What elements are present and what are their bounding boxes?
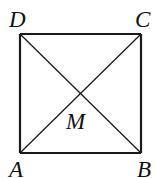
vertex-label-c: C	[135, 7, 151, 32]
square-diagram: D C A B M	[0, 0, 155, 178]
center-label-m: M	[65, 109, 87, 134]
vertex-label-b: B	[137, 157, 151, 178]
vertex-label-a: A	[7, 157, 24, 178]
vertex-label-d: D	[8, 7, 26, 32]
